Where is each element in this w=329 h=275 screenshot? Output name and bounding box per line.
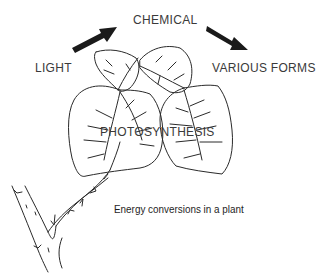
energy-conversion-diagram: LIGHT CHEMICAL VARIOUS FORMS PHOTOSYNTHE… bbox=[0, 0, 329, 275]
arrow-up-right-icon bbox=[72, 27, 117, 53]
leaf-top-right-drawing bbox=[140, 47, 192, 93]
label-light: LIGHT bbox=[35, 62, 72, 74]
label-photosynthesis: PHOTOSYNTHESIS bbox=[100, 126, 215, 138]
stem-drawing bbox=[12, 170, 110, 272]
label-chemical: CHEMICAL bbox=[133, 14, 197, 26]
petiole-drawing bbox=[110, 142, 120, 170]
label-various-forms: VARIOUS FORMS bbox=[212, 62, 316, 74]
figure-caption: Energy conversions in a plant bbox=[114, 204, 244, 216]
arrow-down-right-icon bbox=[206, 26, 248, 50]
leaf-top-left-drawing bbox=[95, 50, 139, 91]
